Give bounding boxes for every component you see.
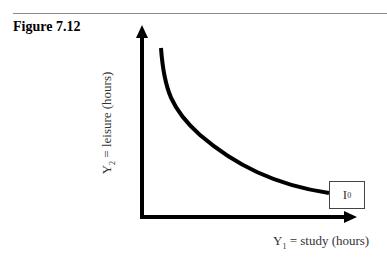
- curve-label-box: I0: [329, 181, 365, 209]
- x-axis-arrow-icon: [344, 211, 357, 223]
- y-axis-arrow-icon: [136, 25, 148, 38]
- x-axis-label: Y1 = study (hours): [273, 233, 369, 251]
- indifference-curve: [161, 48, 329, 193]
- diagram-canvas: [0, 0, 387, 257]
- y-axis-label: Y2 = leisure (hours): [99, 72, 117, 175]
